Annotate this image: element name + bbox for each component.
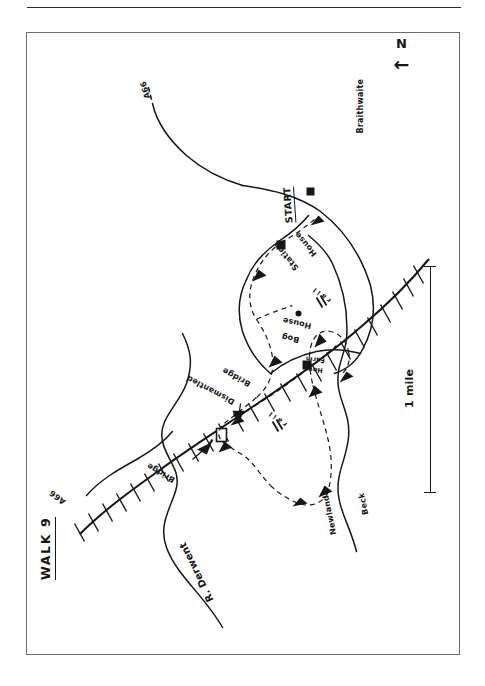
- route-arrow-9: [339, 371, 353, 382]
- route-arrow-3: [268, 355, 282, 367]
- scale-bar-line: [430, 266, 431, 492]
- map-rotation-wrapper: R. Derwent Newlands Beck Braithwaite STA…: [26, 32, 460, 655]
- road-a66-north-line: [86, 431, 172, 495]
- route-arrow-1: [310, 215, 324, 225]
- north-arrow: ← N: [392, 38, 411, 72]
- road-a66-south-line: [152, 103, 242, 185]
- scale-bar-cap-bottom: [424, 492, 436, 493]
- north-arrow-icon: ←: [394, 55, 410, 74]
- route-leg-bog-to-north: [256, 319, 272, 397]
- road-branch-northeast: [239, 279, 270, 373]
- map-canvas: R. Derwent Newlands Beck Braithwaite STA…: [26, 32, 460, 655]
- page-title: WALK 9: [40, 517, 56, 580]
- dismantled-railway-line: [80, 259, 428, 533]
- route-leg-return-east: [312, 383, 331, 495]
- route-arrow-8: [314, 333, 326, 347]
- page-top-rule: [27, 7, 461, 8]
- north-letter: N: [396, 37, 407, 50]
- bridge-box: [216, 428, 226, 441]
- building-braithwaite: [306, 187, 314, 195]
- label-start: START: [281, 186, 295, 223]
- bridge-callout-head: [198, 443, 210, 453]
- railway-hatch-ticks: [74, 265, 423, 541]
- label-braithwaite: Braithwaite: [356, 78, 364, 133]
- label-how-farm-line2: Farm: [305, 355, 325, 363]
- scale-bar-label: 1 mile: [404, 369, 415, 408]
- scale-bar-cap-top: [424, 266, 436, 267]
- route-arrow-2: [252, 269, 266, 281]
- route-arrow-4: [218, 441, 232, 452]
- label-how-farm-line1: How: [306, 365, 323, 373]
- building-bog-house: [295, 310, 301, 316]
- map-linework: [26, 32, 460, 655]
